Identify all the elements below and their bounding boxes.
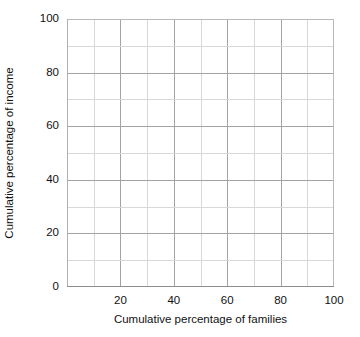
y-tick-label-80: 80 — [26, 67, 59, 79]
gridline-horizontal-90 — [67, 46, 334, 47]
x-tick-label-40: 40 — [167, 295, 180, 307]
gridline-horizontal-30 — [67, 207, 334, 208]
gridline-horizontal-70 — [67, 99, 334, 100]
y-tick-label-0: 0 — [26, 281, 59, 293]
x-tick-label-60: 60 — [221, 295, 234, 307]
x-tick-label-80: 80 — [274, 295, 287, 307]
gridline-horizontal-10 — [67, 260, 334, 261]
y-tick-label-100: 100 — [26, 13, 59, 25]
plot-area — [67, 19, 334, 287]
gridline-horizontal-60 — [67, 126, 334, 127]
y-axis-line — [67, 19, 68, 287]
x-axis-title: Cumulative percentage of families — [67, 314, 334, 326]
y-axis-title-wrapper: Cumulative percentage of income — [0, 19, 20, 287]
y-axis-title: Cumulative percentage of income — [4, 67, 16, 238]
y-tick-label-60: 60 — [26, 120, 59, 132]
gridline-horizontal-40 — [67, 180, 334, 181]
x-axis-line — [67, 286, 334, 287]
y-tick-label-20: 20 — [26, 228, 59, 240]
gridline-horizontal-80 — [67, 73, 334, 74]
x-tick-label-20: 20 — [114, 295, 127, 307]
gridline-horizontal-50 — [67, 153, 334, 154]
x-tick-label-100: 100 — [324, 295, 343, 307]
gridline-horizontal-20 — [67, 233, 334, 234]
chart-figure: 20 40 60 80 100 0 20 40 60 80 100 Cumula… — [0, 0, 360, 337]
y-tick-label-40: 40 — [26, 174, 59, 186]
